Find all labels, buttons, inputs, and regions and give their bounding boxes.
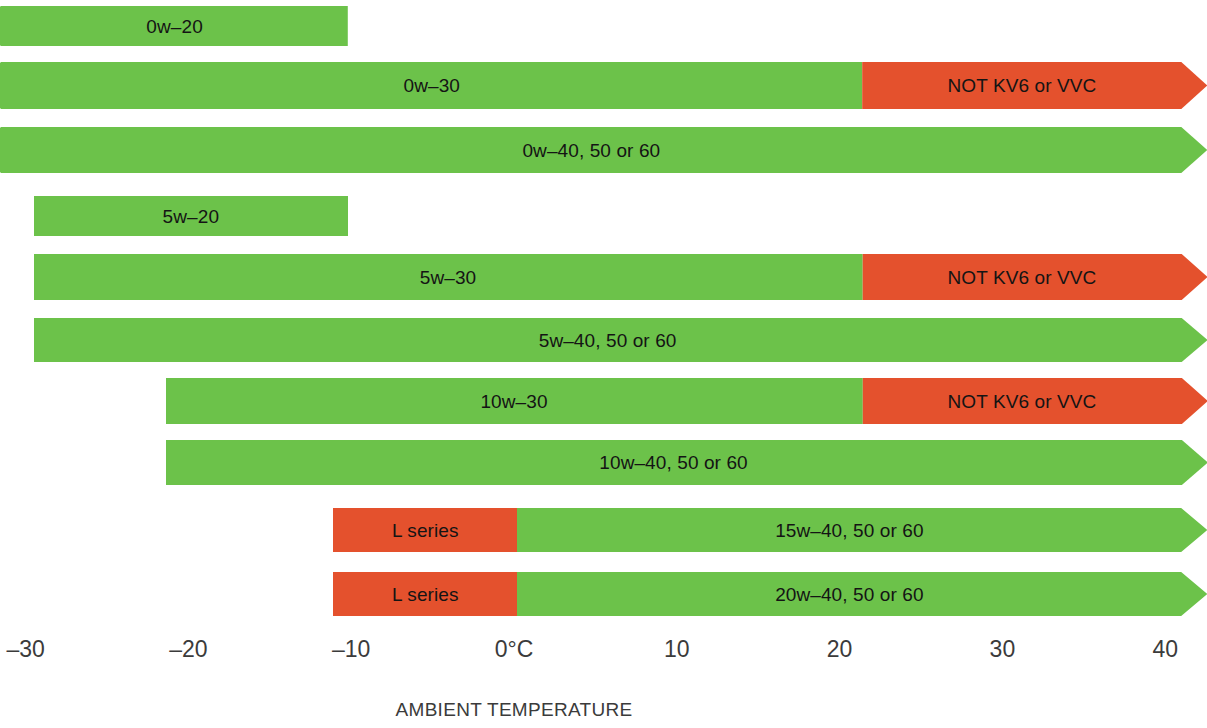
axis-tick-label: –10 bbox=[332, 636, 370, 663]
bar-shape bbox=[34, 318, 1207, 362]
oil-grade-bar: 10w–30NOT KV6 or VVC bbox=[166, 378, 1207, 424]
axis-tick-label: –30 bbox=[6, 636, 44, 663]
bar-segment-red bbox=[862, 62, 1207, 109]
bar-segment-green bbox=[166, 378, 863, 424]
bar-shape bbox=[166, 440, 1207, 485]
bar-shape bbox=[34, 196, 348, 236]
axis-tick-label: 20 bbox=[827, 636, 853, 663]
bar-shape bbox=[333, 572, 1207, 616]
oil-grade-bar: 0w–40, 50 or 60 bbox=[0, 127, 1207, 173]
bar-segment-red bbox=[333, 572, 517, 616]
oil-grade-bar: 0w–20 bbox=[0, 6, 348, 46]
bar-segment-green bbox=[166, 440, 1207, 485]
bar-shape bbox=[0, 127, 1207, 173]
oil-grade-bar: 5w–20 bbox=[34, 196, 348, 236]
bar-segment-green bbox=[517, 508, 1207, 552]
oil-grade-bar: 0w–30NOT KV6 or VVC bbox=[0, 62, 1207, 109]
bar-segment-green bbox=[34, 196, 348, 236]
bar-segment-green bbox=[0, 127, 1207, 173]
oil-grade-bar: L series15w–40, 50 or 60 bbox=[333, 508, 1207, 552]
bar-segment-green bbox=[517, 572, 1207, 616]
bar-segment-green bbox=[34, 318, 1207, 362]
oil-grade-bar: 5w–30NOT KV6 or VVC bbox=[34, 254, 1207, 300]
bar-shape bbox=[166, 378, 1207, 424]
axis-tick-label: 40 bbox=[1152, 636, 1178, 663]
bar-segment-red bbox=[333, 508, 517, 552]
bar-segment-green bbox=[34, 254, 863, 300]
axis-tick-label: 0°C bbox=[495, 636, 534, 663]
bar-segment-red bbox=[862, 378, 1207, 424]
bar-shape bbox=[333, 508, 1207, 552]
axis-tick-label: 30 bbox=[990, 636, 1016, 663]
bar-shape bbox=[0, 6, 348, 46]
bar-shape bbox=[0, 62, 1207, 109]
oil-grade-bar: 5w–40, 50 or 60 bbox=[34, 318, 1207, 362]
axis-title: AMBIENT TEMPERATURE bbox=[396, 699, 633, 721]
bar-shape bbox=[34, 254, 1207, 300]
oil-grade-bar: L series20w–40, 50 or 60 bbox=[333, 572, 1207, 616]
bar-segment-green bbox=[0, 62, 862, 109]
bar-segment-red bbox=[862, 254, 1207, 300]
bar-segment-green bbox=[0, 6, 348, 46]
oil-grade-bar: 10w–40, 50 or 60 bbox=[166, 440, 1207, 485]
axis-tick-label: –20 bbox=[169, 636, 207, 663]
axis-tick-label: 10 bbox=[664, 636, 690, 663]
